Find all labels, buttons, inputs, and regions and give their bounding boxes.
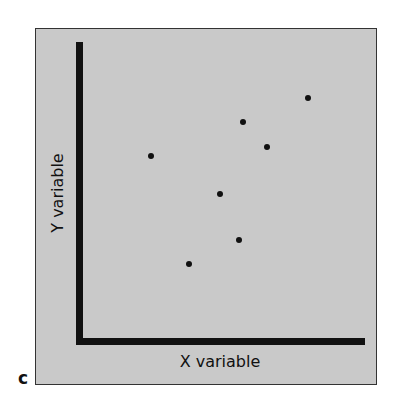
data-point	[240, 119, 246, 125]
chart-frame	[35, 28, 377, 385]
data-point	[148, 153, 154, 159]
data-point	[217, 191, 223, 197]
x-axis	[76, 338, 365, 345]
data-point	[236, 237, 242, 243]
x-axis-label: X variable	[160, 352, 280, 371]
data-point	[264, 144, 270, 150]
panel-label: c	[18, 368, 28, 388]
y-axis	[76, 42, 83, 345]
y-axis-label: Y variable	[48, 153, 67, 232]
data-point	[305, 95, 311, 101]
data-point	[186, 261, 192, 267]
